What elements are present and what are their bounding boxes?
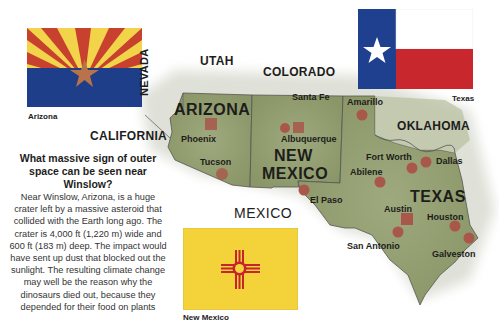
city-label-houston: Houston xyxy=(427,212,464,222)
city-dot-amarillo xyxy=(357,110,368,121)
label-new-mexico-line1: NEW xyxy=(274,147,313,165)
city-label-austin: Austin xyxy=(384,204,412,214)
city-dot-galveston xyxy=(464,233,475,244)
city-label-santa-fe: Santa Fe xyxy=(292,92,330,102)
fact-box: What massive sign of outer space can be … xyxy=(8,152,168,313)
label-arizona: ARIZONA xyxy=(174,101,250,119)
label-utah: UTAH xyxy=(200,54,234,68)
city-label-fort-worth: Fort Worth xyxy=(366,152,412,162)
new-mexico-flag xyxy=(183,228,298,310)
capital-marker-phoenix xyxy=(205,118,217,130)
label-oklahoma: OKLAHOMA xyxy=(397,119,470,133)
city-dot-houston xyxy=(450,221,461,232)
arizona-flag xyxy=(27,28,142,107)
city-label-el-paso: El Paso xyxy=(310,195,343,205)
city-dot-san-antonio xyxy=(393,227,404,238)
city-dot-albuquerque xyxy=(280,123,290,133)
city-dot-dallas xyxy=(421,157,432,168)
city-label-tucson: Tucson xyxy=(200,157,231,167)
fact-answer: Near Winslow, Arizona, is a huge crater … xyxy=(8,191,168,313)
city-label-san-antonio: San Antonio xyxy=(347,241,400,251)
label-nevada: NEVADA xyxy=(138,49,150,96)
arizona-flag-caption: Arizona xyxy=(28,112,57,121)
city-label-albuquerque: Albuquerque xyxy=(281,134,337,144)
city-label-dallas: Dallas xyxy=(436,156,463,166)
city-label-galveston: Galveston xyxy=(432,249,476,259)
label-colorado: COLORADO xyxy=(263,65,335,79)
city-dot-el-paso xyxy=(299,185,310,196)
fact-question: What massive sign of outer space can be … xyxy=(8,152,168,191)
label-new-mexico-line2: MEXICO xyxy=(262,165,328,183)
label-texas: TEXAS xyxy=(410,188,466,206)
texas-flag xyxy=(358,9,473,89)
city-label-abilene: Abilene xyxy=(350,167,383,177)
city-dot-abilene xyxy=(375,177,386,188)
capital-marker-austin xyxy=(401,213,413,225)
city-label-amarillo: Amarillo xyxy=(347,97,383,107)
city-dot-tucson xyxy=(216,168,228,180)
label-mexico: MEXICO xyxy=(234,205,292,221)
label-california: CALIFORNIA xyxy=(90,129,167,143)
new-mexico-flag-caption: New Mexico xyxy=(183,313,229,320)
city-dot-fort-worth xyxy=(407,163,418,174)
texas-flag-caption: Texas xyxy=(452,94,474,103)
city-label-phoenix: Phoenix xyxy=(181,134,216,144)
capital-marker-santa-fe xyxy=(293,122,304,133)
